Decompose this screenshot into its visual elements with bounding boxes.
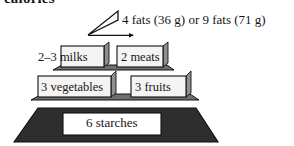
- vegetables-box-shadow: [111, 71, 116, 97]
- tier-label-starches: 6 starches: [86, 116, 138, 129]
- milks-box-shadow: [104, 42, 109, 67]
- fruits-box-shadow: [186, 71, 191, 97]
- tier-label-fruits: 3 fruits: [135, 81, 171, 94]
- tier-label-meats: 2 meats: [121, 51, 160, 64]
- meats-box-shadow: [163, 42, 168, 67]
- food-pyramid-figure: calories: [0, 0, 294, 146]
- apex-base-tip: [129, 33, 134, 38]
- tier-label-fats: 4 fats (36 g) or 9 fats (71 g): [122, 13, 266, 26]
- tier-label-vegetables: 3 vegetables: [41, 81, 103, 94]
- apex-triangle: [88, 11, 118, 35]
- tier-label-milks: 2–3 milks: [38, 51, 88, 64]
